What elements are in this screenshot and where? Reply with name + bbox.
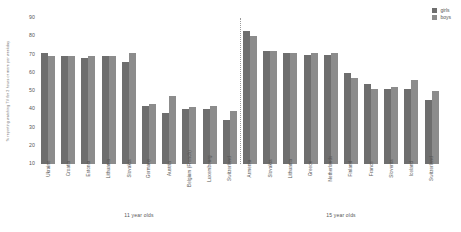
x-axis-label: Croatia (58, 166, 78, 206)
bar-girls (142, 106, 149, 164)
bar-boys (270, 51, 277, 164)
bar-boys (68, 56, 75, 164)
bar-boys (290, 53, 297, 164)
bar-girls (102, 56, 109, 164)
y-axis-tick: 30 (9, 125, 35, 130)
x-axis-label-text: Luxembourg (207, 155, 212, 182)
x-axis-label: Lithuania (280, 166, 300, 206)
bar-girls (404, 89, 411, 164)
x-axis-label: Estonia (78, 166, 98, 206)
bar-group (422, 18, 442, 164)
x-axis-label: Armenia (240, 166, 260, 206)
x-axis-label: Belgium (French) (179, 166, 199, 206)
x-axis-label-text: Greece (308, 161, 313, 177)
x-axis-labels: UkraineCroatiaEstoniaLithuaniaSlovakiaGe… (38, 166, 442, 206)
x-axis-label-text: Croatia (66, 161, 71, 177)
x-axis-label: Slovakia (119, 166, 139, 206)
bar-boys (48, 56, 55, 164)
x-axis-label-text: Austria (167, 161, 172, 176)
bar-boys (250, 36, 257, 164)
bar-boys (331, 53, 338, 164)
bar-group (99, 18, 119, 164)
x-axis-label: Slovakia (260, 166, 280, 206)
group-caption: 11 year olds (38, 212, 240, 218)
x-axis-label-text: Iceland (409, 161, 414, 177)
bar-group (240, 18, 260, 164)
legend-item-boys: boys (432, 15, 451, 20)
bar-girls (425, 100, 432, 164)
bar-group (341, 18, 361, 164)
x-axis-label-text: Lithuania (288, 159, 293, 179)
bar-group (159, 18, 179, 164)
x-axis-label: Slovenia (381, 166, 401, 206)
bar-group (139, 18, 159, 164)
x-axis-label-text: Lithuania (106, 159, 111, 179)
legend-label-boys: boys (440, 15, 451, 20)
bar-girls (384, 89, 391, 164)
y-axis-tick: 70 (9, 52, 35, 57)
bar-group (401, 18, 421, 164)
bar-girls (122, 62, 129, 164)
x-axis-label: Iceland (401, 166, 421, 206)
bar-boys (109, 56, 116, 164)
legend-swatch-girls (432, 8, 437, 13)
bar-girls (283, 53, 290, 164)
bar-boys (411, 80, 418, 164)
bar-group (280, 18, 300, 164)
bar-girls (243, 31, 250, 164)
x-axis-label: Greece (300, 166, 320, 206)
y-axis-tick: 40 (9, 107, 35, 112)
bar-girls (263, 51, 270, 164)
bar-boys (149, 104, 156, 164)
x-axis-label: Lithuania (99, 166, 119, 206)
bar-girls (162, 113, 169, 164)
x-axis-label-text: Ukraine (46, 160, 51, 177)
legend-label-girls: girls (440, 8, 449, 13)
bar-group (179, 18, 199, 164)
y-axis-tick: 80 (9, 34, 35, 39)
x-axis-label-text: Germany (147, 159, 152, 179)
bar-girls (41, 53, 48, 164)
x-axis-label-text: Slovenia (389, 159, 394, 177)
bar-boys (129, 53, 136, 164)
x-axis-label-text: Armenia (247, 160, 252, 178)
bar-boys (391, 87, 398, 164)
x-axis-label: Switzerland (422, 166, 442, 206)
x-axis-label: Luxembourg (200, 166, 220, 206)
bar-chart: % reporting watching TV for 2 hours or m… (0, 0, 461, 232)
bar-girls (304, 55, 311, 165)
bar-group (260, 18, 280, 164)
y-axis-tick: 50 (9, 88, 35, 93)
x-axis-label-text: Netherlands (328, 156, 333, 182)
x-axis-label: Netherlands (321, 166, 341, 206)
bar-girls (324, 55, 331, 165)
x-axis-label-text: Belgium (French) (187, 150, 192, 187)
group-divider (240, 18, 241, 164)
bar-group (300, 18, 320, 164)
group-caption: 15 year olds (240, 212, 442, 218)
bar-girls (81, 58, 88, 164)
bar-group (321, 18, 341, 164)
y-axis-tick: 20 (9, 143, 35, 148)
x-axis-label-text: Finland (348, 161, 353, 177)
bar-group (200, 18, 220, 164)
bar-group (361, 18, 381, 164)
bar-girls (344, 73, 351, 164)
x-axis-label-text: Slovakia (268, 159, 273, 177)
chart-legend: girls boys (432, 8, 451, 20)
bar-girls (364, 84, 371, 164)
bar-group (220, 18, 240, 164)
x-axis-label-text: Estonia (86, 160, 91, 176)
x-axis-label-text: France (369, 161, 374, 176)
bar-boys (88, 56, 95, 164)
bar-group (38, 18, 58, 164)
bar-boys (311, 53, 318, 164)
bar-boys (432, 91, 439, 164)
bar-boys (371, 89, 378, 164)
bar-group (58, 18, 78, 164)
x-axis-label: Switzerland (220, 166, 240, 206)
legend-swatch-boys (432, 15, 437, 20)
x-axis-label-text: Slovakia (126, 159, 131, 177)
y-axis-tick: 60 (9, 70, 35, 75)
plot-area (38, 18, 442, 164)
